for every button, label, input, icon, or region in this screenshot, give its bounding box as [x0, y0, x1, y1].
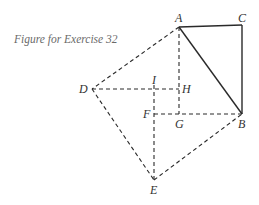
label-b: B: [238, 117, 246, 131]
label-i: I: [151, 73, 157, 87]
segment-ad: [92, 27, 179, 89]
label-a: A: [174, 11, 183, 25]
label-c: C: [238, 11, 247, 25]
segment-eb: [154, 114, 242, 180]
label-f: F: [142, 107, 151, 121]
segment-ac: [179, 25, 242, 27]
geometry-figure: A C B D E F G H I: [0, 0, 259, 205]
segment-ab: [179, 27, 242, 114]
label-g: G: [175, 117, 184, 131]
label-h: H: [181, 82, 192, 96]
label-e: E: [149, 183, 158, 197]
label-d: D: [78, 82, 88, 96]
segment-de: [92, 89, 154, 180]
